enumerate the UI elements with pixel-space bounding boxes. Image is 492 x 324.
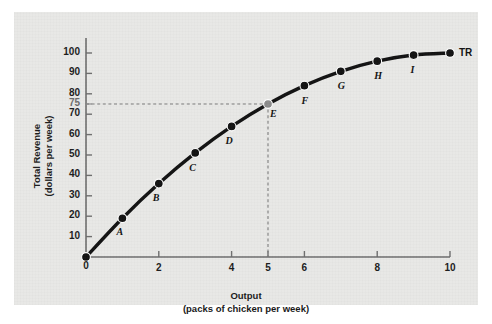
point-label-h: H	[374, 70, 382, 81]
point-label-b: B	[153, 192, 160, 203]
x-tick-label-8: 8	[357, 262, 397, 273]
y-tick-label-90: 90	[69, 66, 80, 77]
y-tick-label-75: 75	[69, 97, 80, 108]
x-axis-title-sub: (packs of chicken per week)	[14, 302, 478, 315]
data-point-h	[373, 57, 382, 66]
y-axis-title-main: Total Revenue	[31, 116, 43, 197]
series-label-tr: TR	[459, 47, 472, 58]
x-tick-label-6: 6	[284, 262, 324, 273]
y-axis-title: Total Revenue (dollars per week)	[30, 96, 56, 216]
point-label-e: E	[270, 108, 277, 119]
y-tick-label-30: 30	[69, 189, 80, 200]
y-tick-label-20: 20	[69, 209, 80, 220]
point-label-i: I	[411, 64, 415, 75]
y-axis-title-sub: (dollars per week)	[43, 116, 55, 197]
y-tick-label-100: 100	[63, 46, 80, 57]
point-label-c: C	[189, 162, 196, 173]
y-tick-marks	[86, 53, 92, 237]
data-point-f	[300, 81, 309, 90]
y-tick-label-80: 80	[69, 87, 80, 98]
x-tick-label-0: 0	[66, 260, 106, 271]
data-point	[446, 49, 455, 58]
point-label-a: A	[116, 226, 123, 237]
data-point-d	[227, 122, 236, 131]
y-tick-label-60: 60	[69, 128, 80, 139]
y-tick-label-50: 50	[69, 148, 80, 159]
x-axis-title-main: Output	[14, 289, 478, 302]
x-tick-label-4: 4	[212, 262, 252, 273]
data-point-a	[118, 214, 127, 223]
data-point-g	[336, 67, 345, 76]
x-tick-marks	[159, 251, 450, 257]
data-point-i	[409, 51, 418, 60]
x-tick-label-10: 10	[430, 262, 470, 273]
point-label-f: F	[301, 95, 308, 106]
x-axis-title: Output (packs of chicken per week)	[14, 289, 478, 315]
chart-figure: Total Revenue (dollars per week) Output …	[14, 12, 478, 305]
point-label-g: G	[338, 80, 345, 91]
point-label-d: D	[226, 135, 233, 146]
data-point-c	[191, 149, 200, 158]
x-tick-label-5: 5	[248, 262, 288, 273]
y-tick-label-40: 40	[69, 168, 80, 179]
data-point-b	[154, 179, 163, 188]
x-tick-label-2: 2	[139, 262, 179, 273]
y-tick-label-70: 70	[69, 107, 80, 118]
y-tick-label-10: 10	[69, 230, 80, 241]
